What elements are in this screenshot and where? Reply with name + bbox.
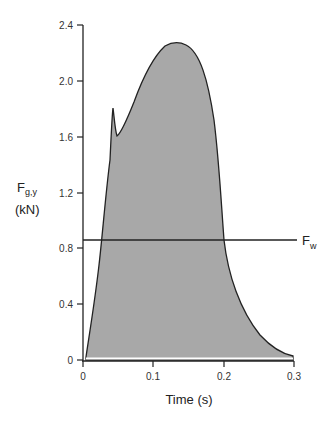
fw-label: Fw bbox=[302, 233, 317, 251]
y-tick-label: 0.4 bbox=[59, 299, 73, 310]
y-tick-label: 0 bbox=[67, 355, 73, 366]
y-axis-label: Fg,y bbox=[17, 180, 37, 197]
y-tick-label: 1.2 bbox=[59, 188, 73, 199]
x-tick-label: 0.2 bbox=[217, 371, 231, 382]
x-ticks bbox=[83, 361, 294, 367]
x-axis-label: Time (s) bbox=[165, 392, 212, 407]
y-tick-label: 0.8 bbox=[59, 243, 73, 254]
x-tick-label: 0.3 bbox=[287, 371, 301, 382]
x-tick-label: 0 bbox=[80, 371, 86, 382]
y-axis-unit: (kN) bbox=[15, 202, 40, 217]
y-tick-label: 1.6 bbox=[59, 132, 73, 143]
y-tick-label: 2.4 bbox=[59, 20, 73, 31]
force-area bbox=[86, 43, 293, 360]
y-tick-label: 2.0 bbox=[59, 76, 73, 87]
y-ticks bbox=[77, 25, 83, 360]
x-tick-label: 0.1 bbox=[146, 371, 160, 382]
force-time-chart: Fw 2.4 2.0 1.6 1.2 0.8 0.4 0 0 0.1 0.2 0… bbox=[0, 0, 331, 424]
